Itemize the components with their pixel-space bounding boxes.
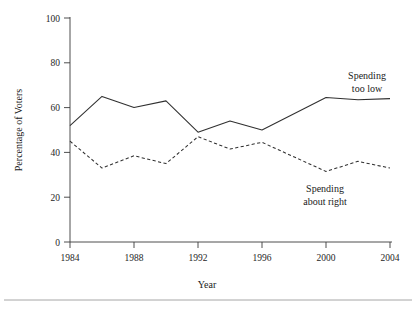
x-tick-label-1992: 1992	[189, 253, 208, 263]
annotation-spending-about-right-line1: Spending	[306, 183, 344, 194]
x-tick-label-1984: 1984	[61, 253, 80, 263]
x-tick-label-1988: 1988	[125, 253, 144, 263]
x-tick-label-2004: 2004	[381, 253, 400, 263]
y-tick-label-20: 20	[51, 193, 61, 203]
y-tick-label-0: 0	[55, 238, 60, 248]
annotation-spending-too-low-line1: Spending	[348, 70, 386, 81]
line-chart-svg: 100 80 60 40 20 0 1984 1988 1992 1996 20…	[0, 0, 416, 310]
y-tick-label-100: 100	[46, 14, 61, 24]
y-tick-label-60: 60	[51, 103, 61, 113]
annotation-spending-about-right-line2: about right	[303, 196, 347, 207]
y-axis-title: Percentage of Voters	[13, 89, 24, 171]
x-axis-title: Year	[198, 279, 217, 290]
x-tick-label-2000: 2000	[317, 253, 336, 263]
y-tick-label-40: 40	[51, 148, 61, 158]
y-tick-label-80: 80	[51, 58, 61, 68]
x-tick-label-1996: 1996	[253, 253, 272, 263]
chart-background	[0, 0, 416, 310]
annotation-spending-too-low-line2: too low	[352, 83, 383, 94]
chart-figure: 100 80 60 40 20 0 1984 1988 1992 1996 20…	[0, 0, 416, 310]
